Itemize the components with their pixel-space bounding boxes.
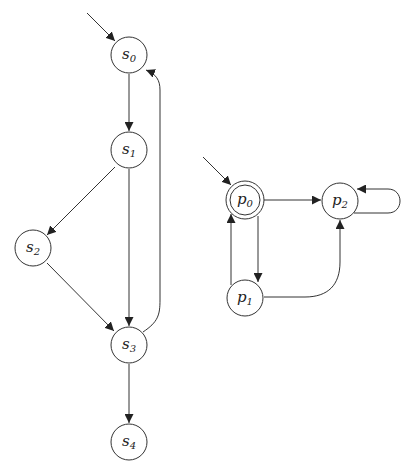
state-p2: p2 <box>322 183 358 219</box>
edge-p2-p2 <box>354 189 400 213</box>
initial-arrow-p0 <box>203 157 231 185</box>
state-p0-accepting: p0 <box>226 181 264 219</box>
state-s2: s2 <box>15 230 51 266</box>
state-diagram: s0 s1 s2 s3 s4 p0 p1 <box>0 0 413 474</box>
edge-s1-s2 <box>47 167 115 235</box>
state-s4: s4 <box>111 424 147 460</box>
state-s3: s3 <box>111 327 147 363</box>
state-s0: s0 <box>111 37 147 73</box>
initial-arrow-s0 <box>87 13 115 41</box>
edge-s2-s3 <box>47 263 114 331</box>
edge-s3-s0 <box>143 70 160 332</box>
p-graph-edges <box>203 157 400 297</box>
state-p1: p1 <box>227 280 263 316</box>
s-graph-edges <box>47 13 160 423</box>
edge-p1-p2 <box>264 220 340 297</box>
state-s1: s1 <box>111 132 147 168</box>
